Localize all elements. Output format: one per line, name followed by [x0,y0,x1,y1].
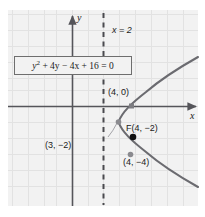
graph-drawing [0,0,205,217]
focus-dot [130,134,137,141]
directrix-label: x = 2 [112,26,132,35]
x-axis-label: x [190,110,194,121]
point-label-4-0: (4, 0) [108,88,129,97]
vertex-leader-line [108,124,117,137]
y-axis-label: y [77,12,81,23]
equation-box: y2 + 4y − 4x + 16 = 0 [14,56,132,75]
point-label-4-neg4: (4, −4) [123,158,149,167]
parabola-curve [119,57,199,187]
marker-vertex-3-neg2 [116,119,122,125]
focus-label: F(4, −2) [126,124,158,133]
parabola-figure: y2 + 4y − 4x + 16 = 0 x = 2 (4, 0) F(4, … [0,0,205,217]
vertex-label: (3, −2) [45,141,71,150]
marker-point-4-0 [129,104,134,109]
equation-remainder: + 4y − 4x + 16 = 0 [40,62,114,72]
equation-text: y2 + 4y − 4x + 16 = 0 [32,59,113,71]
